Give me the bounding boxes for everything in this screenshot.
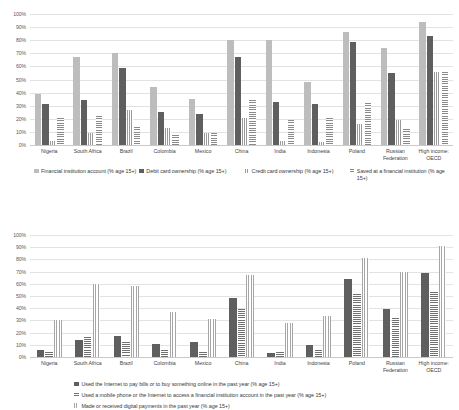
legend-swatch-financial-institution-account: [34, 169, 39, 174]
bar: [421, 273, 429, 357]
x-axis-label: South Africa: [68, 360, 106, 373]
y-axis-tick-label: 100%: [13, 232, 26, 238]
bar: [170, 312, 178, 357]
bar: [350, 42, 356, 145]
chart-digital-payments: 100%90%80%70%60%50%40%30%20%10%0% Nigeri…: [0, 235, 459, 410]
legend-item: Used a mobile phone or the Internet to a…: [74, 392, 459, 399]
bar-group: [30, 235, 68, 357]
bar: [208, 319, 216, 357]
legend-label: Made or received digital payments in the…: [81, 403, 229, 410]
bar-groups-bottom: [30, 235, 453, 357]
bar: [161, 350, 169, 357]
bar: [54, 320, 62, 357]
y-axis-tick-label: 20%: [16, 330, 26, 336]
legend-top: Financial institution account (% age 15+…: [34, 168, 455, 181]
bar-group: [338, 235, 376, 357]
bar: [158, 112, 164, 145]
bar: [280, 141, 286, 145]
bar: [365, 103, 371, 145]
bar: [246, 275, 254, 357]
bar: [152, 344, 160, 357]
y-axis-tick-label: 20%: [16, 116, 26, 122]
y-axis-tick-label: 90%: [16, 24, 26, 30]
bar: [37, 350, 45, 357]
bar: [42, 104, 48, 145]
bar: [150, 87, 156, 145]
y-axis-tick-label: 80%: [16, 256, 26, 262]
x-axis-labels-top: NigeriaSouth AfricaBrazilColombiaMexicoC…: [30, 148, 453, 161]
bar-group: [376, 235, 414, 357]
bar: [319, 142, 325, 145]
x-axis-label: Brazil: [107, 148, 145, 161]
bar: [273, 102, 279, 145]
x-axis-label: Russian Federation: [376, 148, 414, 161]
x-axis-label: Colombia: [145, 148, 183, 161]
y-axis-tick-label: 90%: [16, 244, 26, 250]
bar: [396, 120, 402, 145]
bar-group: [145, 235, 183, 357]
bar: [84, 337, 92, 357]
y-axis-tick-label: 0%: [19, 354, 26, 360]
bar: [96, 116, 102, 145]
bar: [400, 272, 408, 357]
plot-area-bottom: 100%90%80%70%60%50%40%30%20%10%0%: [30, 235, 453, 357]
legend-swatch-made-or-received-digital-payments: [74, 403, 79, 408]
x-axis-label: India: [261, 148, 299, 161]
y-axis-tick-label: 60%: [16, 63, 26, 69]
x-axis-label: Poland: [338, 148, 376, 161]
bar: [326, 118, 332, 146]
bar: [229, 298, 237, 357]
bar: [127, 110, 133, 145]
y-axis-tick-label: 100%: [13, 11, 26, 17]
bar: [249, 100, 255, 145]
x-axis-label: Nigeria: [30, 148, 68, 161]
bar: [266, 40, 272, 145]
y-axis-tick-label: 40%: [16, 90, 26, 96]
bar: [81, 100, 87, 145]
legend-swatch-debit-card-ownership: [139, 169, 144, 174]
bar-group: [261, 235, 299, 357]
legend-label: Used the Internet to pay bills or to buy…: [81, 381, 279, 388]
bar: [312, 104, 318, 145]
x-axis-label: India: [261, 360, 299, 373]
legend-swatch-saved-at-financial-institution: [350, 169, 355, 174]
bar: [430, 292, 438, 357]
legend-swatch-used-internet-to-pay-bills: [74, 382, 79, 387]
bar: [288, 120, 294, 145]
y-axis-tick-label: 30%: [16, 317, 26, 323]
bar: [93, 284, 101, 357]
x-axis-label: Russian Federation: [376, 360, 414, 373]
x-axis-label: Indonesia: [299, 148, 337, 161]
bar: [199, 352, 207, 357]
bar: [439, 246, 447, 357]
bar-group: [376, 14, 414, 145]
x-axis-label: Colombia: [145, 360, 183, 373]
legend-label: Saved at a financial institution (% age …: [357, 168, 455, 181]
bar-group: [184, 235, 222, 357]
y-axis-tick-label: 10%: [16, 342, 26, 348]
bar: [190, 342, 198, 357]
bar: [306, 345, 314, 357]
legend-item: Made or received digital payments in the…: [74, 403, 459, 410]
bar: [344, 279, 352, 357]
bar: [238, 309, 246, 357]
bar: [172, 135, 178, 145]
bar: [434, 72, 440, 145]
legend-swatch-used-mobile-phone-or-internet: [74, 393, 79, 398]
bar: [427, 36, 433, 145]
bar: [315, 350, 323, 357]
bar: [204, 133, 210, 145]
bar: [392, 318, 400, 357]
bar-group: [30, 14, 68, 145]
bar-group: [415, 235, 453, 357]
legend-bottom: Used the Internet to pay bills or to buy…: [74, 381, 459, 409]
legend-item: Financial institution account (% age 15+…: [34, 168, 139, 181]
y-axis-tick-label: 70%: [16, 50, 26, 56]
bar-group: [222, 235, 260, 357]
bar: [122, 342, 130, 357]
y-axis-tick-label: 0%: [19, 142, 26, 148]
bar: [165, 128, 171, 145]
bar: [403, 129, 409, 145]
bar: [362, 258, 370, 357]
bar: [119, 68, 125, 145]
